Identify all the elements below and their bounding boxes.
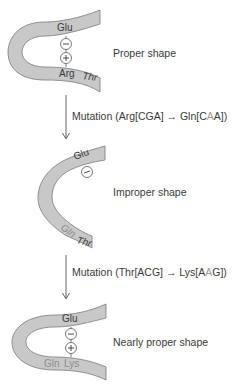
residue-glu: Glu <box>57 22 73 33</box>
residue-thr: Thr <box>82 70 99 83</box>
mutated-base: A <box>207 110 214 122</box>
protein-strand-improper: Glu Gln Thr <box>38 146 105 249</box>
residue-lys: Lys <box>64 358 79 369</box>
residue-glu: Glu <box>62 313 78 324</box>
residue-arg: Arg <box>59 68 75 79</box>
mutation-caption-1: Mutation (Arg[CGA] → Gln[CAA]) <box>72 110 227 122</box>
mutation-caption-2: Mutation (Thr[ACG] → Lys[AAG]) <box>72 266 227 278</box>
arrow-right-icon: → <box>166 266 177 278</box>
stage-label-improper: Improper shape <box>113 186 187 198</box>
arrow-right-icon: → <box>167 110 178 122</box>
protein-strand-proper: Glu Arg Thr <box>8 10 100 92</box>
stage-label-proper: Proper shape <box>113 47 176 59</box>
protein-strand-nearly-proper: Glu Gln Lys <box>12 304 106 380</box>
stage-label-nearly-proper: Nearly proper shape <box>113 336 208 348</box>
residue-gln: Gln <box>44 358 60 369</box>
